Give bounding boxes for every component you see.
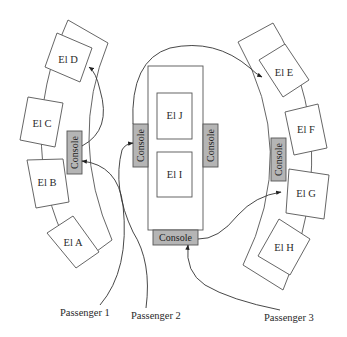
console-center-left[interactable]: Console: [133, 124, 148, 167]
elevator-b-label: El B: [38, 177, 57, 188]
center-bank-outline: [148, 66, 203, 230]
left-elevator-bank: El D El C El B El A: [20, 20, 112, 268]
console-center-bottom[interactable]: Console: [153, 230, 198, 245]
elevator-f-label: El F: [297, 124, 315, 135]
console-center-right-label: Console: [205, 129, 216, 162]
passenger-3-label: Passenger 3: [264, 312, 314, 323]
console-center-left-label: Console: [135, 129, 146, 162]
console-right[interactable]: Console: [271, 138, 286, 181]
elevator-g: El G: [286, 169, 329, 219]
console-left-label: Console: [69, 136, 80, 169]
elevator-c: El C: [20, 97, 63, 147]
console-left[interactable]: Console: [67, 131, 82, 174]
elevator-h-label: El H: [274, 242, 294, 253]
console-center-bottom-label: Console: [159, 232, 192, 243]
elevator-a-label: El A: [64, 237, 83, 248]
console-right-label: Console: [273, 143, 284, 176]
console-center-right[interactable]: Console: [203, 124, 218, 167]
path-passenger2-to-console: [119, 143, 148, 308]
elevator-i: El I: [157, 152, 192, 197]
elevator-e-label: El E: [275, 67, 293, 78]
passenger-1-label: Passenger 1: [60, 307, 110, 318]
elevator-diagram: El D El C El B El A Console El J El: [0, 0, 347, 337]
center-elevator-bank: El J El I: [148, 66, 203, 230]
elevator-i-label: El I: [167, 169, 183, 180]
elevator-j-label: El J: [166, 110, 182, 121]
elevator-j: El J: [157, 93, 192, 139]
elevator-b: El B: [27, 159, 69, 208]
elevator-d-label: El D: [58, 54, 78, 65]
elevator-c-label: El C: [33, 118, 52, 129]
passenger-2-label: Passenger 2: [131, 310, 181, 321]
elevator-g-label: El G: [296, 188, 316, 199]
